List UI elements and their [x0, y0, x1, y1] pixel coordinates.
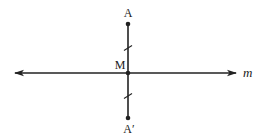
point-a-prime [126, 116, 131, 121]
label-a-prime: A′ [123, 122, 135, 136]
point-m [126, 71, 131, 76]
point-a [126, 22, 131, 27]
label-line-m: m [243, 65, 252, 80]
label-m-point: M [115, 58, 126, 72]
label-a: A [124, 6, 133, 20]
reflection-diagram: A M A′ m [0, 0, 268, 138]
